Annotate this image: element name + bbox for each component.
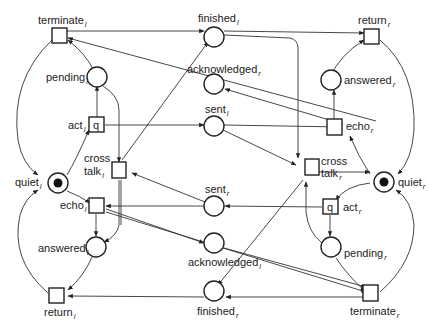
transition-cross-talk-r[interactable]: [305, 159, 319, 175]
place-answered-r[interactable]: [321, 70, 341, 90]
transition-return-r[interactable]: [364, 29, 379, 44]
transition-act-l-inner: q: [93, 119, 99, 131]
arc-act-r-sent-r: [225, 206, 322, 207]
token-icon: [380, 178, 389, 187]
labels: terminatel finishedl returnr pendingl ac…: [15, 12, 426, 321]
label-cross-talk-l-2: talkl: [84, 165, 104, 180]
label-finished-l: finishedl: [198, 12, 239, 27]
label-acknowledged-l: acknowledgedl: [188, 256, 261, 271]
transition-cross-talk-l[interactable]: [112, 162, 126, 178]
place-quiet-r[interactable]: [374, 172, 394, 192]
label-quiet-l: quietl: [15, 176, 42, 191]
label-pending-l: pendingl: [46, 71, 88, 86]
arc-quiet-r-act-r: [336, 183, 370, 200]
label-answered-r: answeredr: [344, 74, 396, 89]
arc-terminate-l-quiet-l: [17, 40, 52, 175]
arc-answered-l-return-l: [68, 257, 92, 290]
place-finished-r[interactable]: [204, 281, 224, 301]
label-finished-r: finishedr: [197, 305, 239, 320]
label-terminate-l: terminatel: [38, 14, 87, 29]
arc-echo-r-acknowledged-r: [225, 89, 343, 124]
arc-pending-r-terminate-r: [336, 258, 365, 291]
arc-cross-talk-l-finished-l: [122, 42, 208, 160]
arc-pending-l-terminate-l: [68, 40, 94, 71]
place-sent-r[interactable]: [204, 196, 224, 216]
transition-return-l[interactable]: [49, 288, 64, 303]
arc-finished-l-cross-talk-r: [224, 35, 298, 158]
petri-net-diagram: q q terminatel finishedl returnr pending…: [0, 0, 429, 331]
label-echo-r: echor: [346, 120, 374, 135]
token-icon: [54, 179, 63, 188]
label-cross-talk-r-2: talkr: [321, 167, 342, 182]
place-pending-r[interactable]: [321, 237, 341, 257]
arc-quiet-r-echo-r: [350, 136, 370, 174]
place-sent-l[interactable]: [204, 116, 224, 136]
arc-finished-r-return-l: [68, 296, 204, 297]
label-pending-r: pendingr: [344, 247, 387, 262]
place-answered-l[interactable]: [86, 237, 106, 257]
place-pending-l[interactable]: [87, 67, 107, 87]
arc-pending-l-cross-talk-l: [103, 86, 119, 162]
arc-finished-l-return-r: [224, 31, 364, 33]
arc-pending-r-cross-talk-r: [306, 182, 322, 243]
label-act-r: actr: [343, 201, 362, 216]
transition-terminate-r[interactable]: [363, 285, 378, 301]
transition-terminate-l[interactable]: [52, 28, 67, 43]
place-finished-l[interactable]: [204, 27, 224, 47]
label-act-l: actl: [68, 119, 86, 134]
label-quiet-r: quietr: [398, 176, 426, 191]
arc-return-r-quiet-r: [380, 40, 414, 174]
label-terminate-r: terminater: [350, 305, 400, 320]
arc-sent-l-echo-r: [224, 125, 342, 127]
arc-sent-l-cross-talk-r: [223, 130, 296, 165]
place-acknowledged-l[interactable]: [204, 233, 224, 253]
transition-echo-l[interactable]: [89, 198, 104, 213]
transition-echo-r[interactable]: [327, 119, 342, 135]
arc-terminate-r-quiet-r: [380, 190, 414, 292]
label-echo-l: echol: [60, 199, 87, 214]
label-return-l: returnl: [44, 306, 76, 321]
label-answered-l: answeredl: [38, 242, 89, 257]
label-return-r: returnr: [358, 14, 391, 29]
place-quiet-l[interactable]: [48, 173, 68, 193]
label-sent-r: sentr: [205, 183, 230, 198]
transition-act-r-inner: q: [327, 201, 333, 213]
arc-sent-r-cross-talk-l: [132, 173, 205, 202]
label-cross-talk-r-1: cross: [321, 155, 348, 167]
place-acknowledged-r[interactable]: [204, 74, 224, 94]
label-cross-talk-l-1: cross: [84, 152, 111, 164]
label-acknowledged-r: acknowledgedr: [187, 63, 261, 78]
